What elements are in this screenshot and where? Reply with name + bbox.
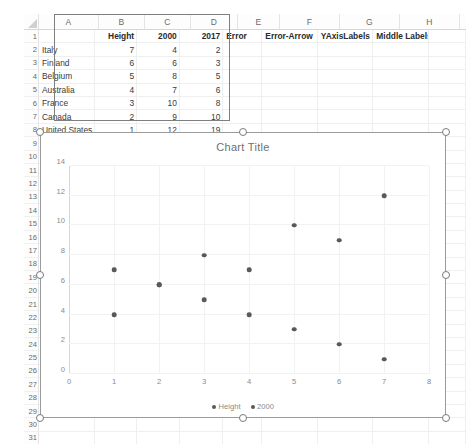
cell-d2[interactable]: 2 <box>180 43 224 56</box>
chart-object[interactable]: Chart Title 02468101214012345678 Height2… <box>40 132 446 418</box>
table-row[interactable]: Finland663 <box>39 57 466 70</box>
cell-c2[interactable]: 4 <box>137 43 180 56</box>
cell-a2[interactable]: Italy <box>39 43 95 56</box>
data-point[interactable] <box>292 327 297 332</box>
row-header-4[interactable]: 4 <box>24 70 39 83</box>
cell-f30[interactable] <box>262 418 318 431</box>
cell-g3[interactable] <box>318 57 374 70</box>
cell-h2[interactable] <box>373 43 429 56</box>
row-header-17[interactable]: 17 <box>24 244 39 257</box>
cell-i1[interactable] <box>429 30 466 43</box>
column-header-i[interactable]: I <box>460 14 466 30</box>
column-header-h[interactable]: H <box>400 14 460 30</box>
cell-h1[interactable]: Middle Labels <box>373 30 429 43</box>
column-header-b[interactable]: B <box>99 14 145 30</box>
data-point[interactable] <box>337 342 342 347</box>
resize-handle-top-left[interactable] <box>36 128 44 136</box>
cell-f2[interactable] <box>262 43 318 56</box>
legend-item[interactable]: Height <box>212 402 240 411</box>
cell-d7[interactable]: 10 <box>180 110 224 123</box>
row-header-7[interactable]: 7 <box>24 110 39 123</box>
cell-i5[interactable] <box>429 84 466 97</box>
column-header-f[interactable]: F <box>280 14 340 30</box>
cell-a7[interactable]: Canada <box>39 110 95 123</box>
row-header-5[interactable]: 5 <box>24 84 39 97</box>
row-header-23[interactable]: 23 <box>24 325 39 338</box>
row-header-18[interactable]: 18 <box>24 258 39 271</box>
cell-b6[interactable]: 3 <box>95 97 138 110</box>
cell-c31[interactable] <box>137 432 180 444</box>
cell-g30[interactable] <box>318 418 374 431</box>
cell-c6[interactable]: 10 <box>137 97 180 110</box>
data-point[interactable] <box>202 297 207 302</box>
resize-handle-bottom-right[interactable] <box>442 414 450 422</box>
resize-handle-bottom-left[interactable] <box>36 414 44 422</box>
row-header-16[interactable]: 16 <box>24 231 39 244</box>
cell-a1[interactable] <box>39 30 95 43</box>
table-row[interactable]: Canada2910 <box>39 110 466 123</box>
cell-d4[interactable]: 5 <box>180 70 224 83</box>
cell-b31[interactable] <box>95 432 138 444</box>
cell-a6[interactable]: France <box>39 97 95 110</box>
cell-h30[interactable] <box>373 418 429 431</box>
cell-g1[interactable]: YAxisLabels <box>318 30 374 43</box>
data-point[interactable] <box>382 357 387 362</box>
cell-d6[interactable]: 8 <box>180 97 224 110</box>
cell-h6[interactable] <box>373 97 429 110</box>
table-row[interactable]: Height20002017ErrorError-ArrowYAxisLabel… <box>39 30 466 43</box>
row-header-25[interactable]: 25 <box>24 351 39 364</box>
chart-title[interactable]: Chart Title <box>41 141 445 153</box>
data-point[interactable] <box>202 253 207 258</box>
column-header-d[interactable]: D <box>191 14 238 30</box>
cell-b3[interactable]: 6 <box>95 57 138 70</box>
cell-i4[interactable] <box>429 70 466 83</box>
cell-d3[interactable]: 3 <box>180 57 224 70</box>
cell-b7[interactable]: 2 <box>95 110 138 123</box>
cell-f5[interactable] <box>262 84 318 97</box>
resize-handle-middle-right[interactable] <box>442 271 450 279</box>
cell-g31[interactable] <box>318 432 374 444</box>
cell-i2[interactable] <box>429 43 466 56</box>
cell-g2[interactable] <box>318 43 374 56</box>
cell-i3[interactable] <box>429 57 466 70</box>
cell-d1[interactable]: 2017 <box>180 30 224 43</box>
cell-h7[interactable] <box>373 110 429 123</box>
row-header-13[interactable]: 13 <box>24 191 39 204</box>
table-row[interactable]: France3108 <box>39 97 466 110</box>
cell-c1[interactable]: 2000 <box>137 30 180 43</box>
cell-a30[interactable] <box>39 418 95 431</box>
cell-i6[interactable] <box>429 97 466 110</box>
table-row[interactable] <box>39 432 466 444</box>
cell-c30[interactable] <box>137 418 180 431</box>
row-header-15[interactable]: 15 <box>24 217 39 230</box>
cell-f1[interactable]: Error-Arrow <box>262 30 318 43</box>
cell-h5[interactable] <box>373 84 429 97</box>
cell-b5[interactable]: 4 <box>95 84 138 97</box>
data-point[interactable] <box>382 193 387 198</box>
cell-h31[interactable] <box>373 432 429 444</box>
row-header-6[interactable]: 6 <box>24 97 39 110</box>
data-point[interactable] <box>247 312 252 317</box>
cell-a31[interactable] <box>39 432 95 444</box>
row-header-26[interactable]: 26 <box>24 365 39 378</box>
data-point[interactable] <box>112 312 117 317</box>
data-point[interactable] <box>337 238 342 243</box>
cell-i7[interactable] <box>429 110 466 123</box>
cell-e5[interactable] <box>223 84 262 97</box>
row-header-24[interactable]: 24 <box>24 338 39 351</box>
row-header-1[interactable]: 1 <box>24 30 39 43</box>
cell-h4[interactable] <box>373 70 429 83</box>
row-header-27[interactable]: 27 <box>24 378 39 391</box>
column-header-c[interactable]: C <box>145 14 191 30</box>
row-header-2[interactable]: 2 <box>24 43 39 56</box>
plot-area[interactable]: 02468101214012345678 <box>69 166 429 374</box>
cell-f6[interactable] <box>262 97 318 110</box>
row-header-31[interactable]: 31 <box>24 432 39 444</box>
cell-a3[interactable]: Finland <box>39 57 95 70</box>
row-header-21[interactable]: 21 <box>24 298 39 311</box>
cell-d5[interactable]: 6 <box>180 84 224 97</box>
cell-e3[interactable] <box>223 57 262 70</box>
row-header-12[interactable]: 12 <box>24 177 39 190</box>
table-row[interactable]: Italy742 <box>39 43 466 56</box>
cell-g4[interactable] <box>318 70 374 83</box>
